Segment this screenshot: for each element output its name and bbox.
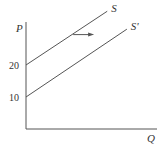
series-label-s-prime: S' (131, 20, 140, 32)
x-axis-label: Q (147, 132, 155, 144)
y-tick-label-10: 10 (9, 92, 19, 103)
y-tick-label-20: 20 (9, 60, 19, 71)
series-label-s: S (111, 2, 117, 14)
arrow-right-icon (88, 33, 94, 37)
supply-line-s (26, 11, 107, 65)
supply-shift-chart: P Q 20 10 SS' (0, 0, 166, 148)
y-axis-label: P (15, 22, 23, 34)
supply-line-s-prime (26, 29, 127, 97)
